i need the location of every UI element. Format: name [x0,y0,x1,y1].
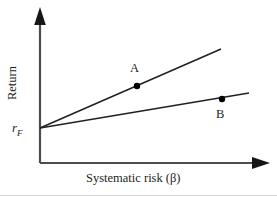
risk-free-rate-label: rF [12,121,23,138]
data-point-a-label: A [130,62,139,75]
bottom-rule-divider [0,195,277,196]
x-axis-title: Systematic risk (β) [86,172,181,185]
data-point-a [134,83,140,89]
data-point-b [219,96,225,102]
capm-security-market-line-figure: Return Systematic risk (β) rF A B [0,0,277,197]
rf-subscript: F [17,128,23,138]
data-point-b-label: B [216,108,224,121]
chart-canvas [0,0,277,197]
x-axis-arrow-icon [252,157,270,169]
y-axis-title: Return [6,52,19,114]
y-axis-arrow-icon [34,7,46,25]
